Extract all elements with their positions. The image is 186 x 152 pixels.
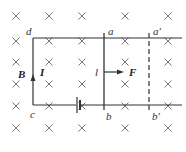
cross-icon — [46, 13, 53, 20]
label-d: d — [26, 25, 32, 37]
force-arrow-icon — [104, 70, 124, 75]
cross-icon — [46, 59, 53, 66]
cross-icon — [165, 13, 172, 20]
current-arrow-icon — [31, 74, 36, 81]
label-c: c — [30, 108, 35, 120]
label-a: a — [108, 25, 114, 37]
cross-icon — [46, 125, 53, 132]
cross-icon — [165, 103, 172, 110]
cross-icon — [165, 59, 172, 66]
cross-icon — [79, 125, 86, 132]
cross-icon — [13, 125, 20, 132]
cross-icon — [122, 59, 129, 66]
cross-icon — [13, 81, 20, 88]
cross-icon — [79, 59, 86, 66]
label-rod-length-l: l — [95, 66, 98, 78]
cross-icon — [122, 81, 129, 88]
physics-diagram: d a a′ c b b′ B I l F — [0, 0, 186, 152]
cross-icon — [122, 13, 129, 20]
cross-icon — [13, 103, 20, 110]
cross-icon — [165, 125, 172, 132]
label-b-prime: b′ — [152, 110, 161, 122]
label-current-I: I — [39, 66, 45, 78]
cross-icon — [122, 125, 129, 132]
cross-icon — [79, 81, 86, 88]
cross-icon — [79, 13, 86, 20]
magnetic-field-crosses — [13, 13, 172, 132]
label-field-B: B — [17, 68, 25, 80]
cross-icon — [13, 38, 20, 45]
cross-icon — [46, 81, 53, 88]
cross-icon — [13, 59, 20, 66]
label-a-prime: a′ — [153, 25, 162, 37]
cross-icon — [122, 103, 129, 110]
label-force-F: F — [128, 66, 137, 78]
cross-icon — [46, 103, 53, 110]
cross-icon — [13, 13, 20, 20]
cross-icon — [165, 81, 172, 88]
battery-icon — [77, 97, 80, 113]
label-b: b — [106, 110, 112, 122]
